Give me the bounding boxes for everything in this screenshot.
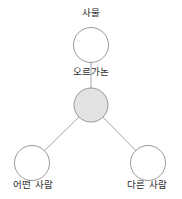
node-label-center: 오르가논 <box>0 67 182 77</box>
node-label-bottom-left: 어떤 사람 <box>0 180 66 190</box>
node-group <box>15 28 166 181</box>
node-label-top: 사물 <box>0 8 182 18</box>
node-link-diagram <box>0 0 182 199</box>
node-top-circle[interactable] <box>74 28 109 63</box>
node-center-circle[interactable] <box>74 88 108 122</box>
node-bottom-right-circle[interactable] <box>131 146 166 181</box>
node-bottom-left-circle[interactable] <box>15 146 50 181</box>
node-label-bottom-right: 다른 사람 <box>112 180 182 190</box>
